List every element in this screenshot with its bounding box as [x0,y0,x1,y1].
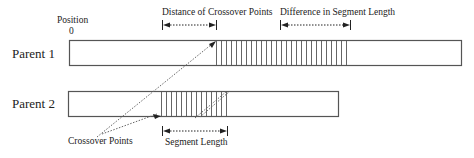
distance-crossover-arrow [163,20,217,30]
parent-1-bar [70,41,462,66]
parent-2-label: Parent 2 [12,97,55,110]
segment-length-arrow [163,126,228,136]
segment-length-label: Segment Length [165,138,228,148]
difference-segment-length-label: Difference in Segment Length [280,8,395,18]
parent-2-bar [69,92,339,117]
difference-segment-length-arrow [281,20,351,30]
position-origin-label: 0 [69,27,74,37]
parent-1-label: Parent 1 [12,47,55,60]
position-label: Position [57,16,88,26]
parent-1-chromosome [70,41,462,66]
parent-2-chromosome [69,92,339,117]
distance-crossover-label: Distance of Crossover Points [162,8,273,18]
crossover-points-label: Crossover Points [68,137,133,147]
